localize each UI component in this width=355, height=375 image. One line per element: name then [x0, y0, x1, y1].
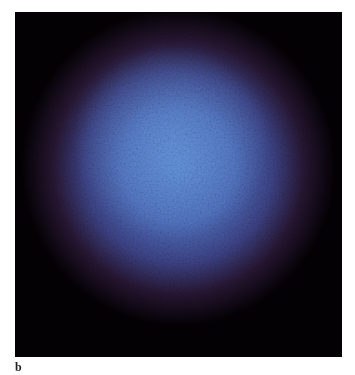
speckle-noise: [15, 12, 342, 357]
micrograph-image: [15, 12, 342, 357]
panel-label: b: [15, 360, 22, 375]
